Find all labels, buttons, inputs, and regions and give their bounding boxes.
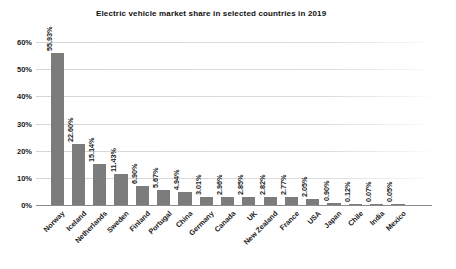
bar[interactable] <box>136 186 149 205</box>
x-axis-label-slot: Germany <box>196 207 217 267</box>
x-axis-label-slot: Norway <box>47 207 68 267</box>
y-axis-tick-label: 0% <box>0 201 32 210</box>
bar-value-label: 3.01% <box>194 174 203 194</box>
x-axis-label-slot: India <box>367 207 388 267</box>
bar-value-label: 2.82% <box>258 175 267 195</box>
bar-value-label: 2.77% <box>279 175 288 195</box>
bar-value-label: 0.90% <box>322 180 331 200</box>
bar-slot: 55.93% <box>47 42 68 205</box>
bar-slot: 0.05% <box>388 42 409 205</box>
x-axis-tick-label: France <box>278 209 301 232</box>
x-axis-tick-label: Chile <box>346 209 365 228</box>
bar[interactable] <box>221 197 234 205</box>
y-axis-tick-label: 20% <box>0 146 32 155</box>
bar[interactable] <box>242 197 255 205</box>
bar[interactable] <box>178 192 191 205</box>
bar-slot: 0.90% <box>324 42 345 205</box>
bar-slot: 0.12% <box>345 42 366 205</box>
x-axis-tick-label: UK <box>245 209 259 223</box>
x-axis-label-slot: Mexico <box>388 207 409 267</box>
x-axis-label-slot: France <box>281 207 302 267</box>
x-axis-tick-label: Norway <box>42 209 67 234</box>
bar-value-label: 2.85% <box>237 175 246 195</box>
x-axis-tick-label: Japan <box>322 209 343 230</box>
bar-slot: 2.05% <box>303 42 324 205</box>
bar-slot: 0.07% <box>367 42 388 205</box>
bar-value-label: 0.07% <box>364 182 373 202</box>
bar-value-label: 11.43% <box>109 148 118 172</box>
chart-title: Electric vehicle market share in selecte… <box>96 9 396 18</box>
bar-slot: 15.14% <box>90 42 111 205</box>
bar[interactable] <box>157 190 170 205</box>
bar[interactable] <box>51 53 64 205</box>
bar-value-label: 0.05% <box>386 182 395 202</box>
bar-slot: 4.94% <box>175 42 196 205</box>
bar-slot: 22.60% <box>68 42 89 205</box>
bar[interactable] <box>114 174 127 205</box>
x-axis-label-slot: Sweden <box>111 207 132 267</box>
x-axis-line <box>36 205 432 206</box>
bar-value-label: 55.93% <box>45 27 54 51</box>
y-axis: 60%50%40%30%20%10%0% <box>0 0 32 269</box>
plot-area: 55.93%22.60%15.14%11.43%6.90%5.67%4.94%3… <box>36 42 436 205</box>
x-axis-label-slot: Portugal <box>154 207 175 267</box>
x-axis-label-slot: USA <box>303 207 324 267</box>
x-axis-label-slot: Netherlands <box>90 207 111 267</box>
x-axis-label-slot: New Zealand <box>260 207 281 267</box>
x-axis-tick-label: USA <box>305 209 322 226</box>
bar[interactable] <box>264 197 277 205</box>
bar-slot: 11.43% <box>111 42 132 205</box>
bar-value-label: 2.96% <box>215 175 224 195</box>
x-axis-tick-label: Mexico <box>384 209 408 233</box>
bar-value-label: 0.12% <box>343 182 352 202</box>
y-axis-tick-label: 50% <box>0 65 32 74</box>
bar[interactable] <box>200 197 213 205</box>
x-axis-label-slot: Japan <box>324 207 345 267</box>
y-axis-tick-label: 40% <box>0 92 32 101</box>
bar-slot: 2.82% <box>260 42 281 205</box>
bar-value-label: 5.67% <box>151 167 160 187</box>
x-axis-labels: NorwayIcelandNetherlandsSwedenFinlandPor… <box>36 207 436 269</box>
bar-value-label: 4.94% <box>173 169 182 189</box>
bar[interactable] <box>72 144 85 205</box>
bar-value-label: 15.14% <box>87 137 96 161</box>
x-axis-label-slot: Finland <box>132 207 153 267</box>
bar-value-label: 22.60% <box>66 117 75 141</box>
bar-chart: Electric vehicle market share in selecte… <box>0 0 456 269</box>
x-axis-tick-label: India <box>368 209 386 227</box>
bar-slot: 2.85% <box>239 42 260 205</box>
bar-value-label: 2.05% <box>300 177 309 197</box>
bar[interactable] <box>285 197 298 205</box>
bar-value-label: 6.90% <box>130 164 139 184</box>
x-axis-label-slot: Canada <box>217 207 238 267</box>
y-axis-tick-label: 60% <box>0 38 32 47</box>
bar-slot: 3.01% <box>196 42 217 205</box>
y-axis-tick-label: 30% <box>0 119 32 128</box>
x-axis-label-slot: Chile <box>345 207 366 267</box>
bar[interactable] <box>93 164 106 205</box>
y-axis-tick-label: 10% <box>0 173 32 182</box>
